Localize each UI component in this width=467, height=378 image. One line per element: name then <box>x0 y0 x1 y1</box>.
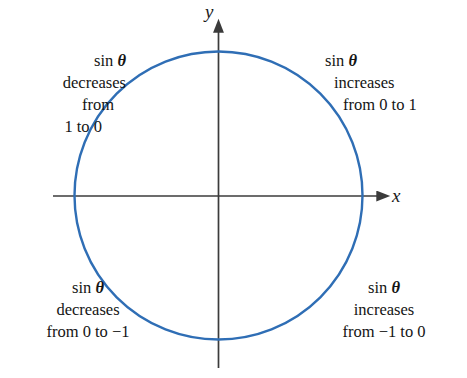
sin-prefix: sin <box>368 278 387 297</box>
quadrant-1-note-line-1: sin θ <box>325 50 459 72</box>
quadrant-3-note-line-1: sin θ <box>14 277 162 299</box>
quadrant-2-note-line-4: 1 to 0 <box>18 116 126 138</box>
quadrant-2-note-line-1: sin θ <box>18 50 126 72</box>
sin-prefix: sin <box>325 51 344 70</box>
theta-symbol: θ <box>348 51 357 70</box>
quadrant-3-note-line-3: from 0 to −1 <box>14 321 162 343</box>
quadrant-4-note-line-3: from −1 to 0 <box>308 321 460 343</box>
theta-symbol: θ <box>117 51 126 70</box>
theta-symbol: θ <box>391 278 400 297</box>
sin-prefix: sin <box>72 278 91 297</box>
theta-symbol: θ <box>95 278 104 297</box>
quadrant-2-note: sin θ decreases from 1 to 0 <box>18 50 126 138</box>
unit-circle-sine-figure: y x sin θ decreases from 1 to 0 sin θ in… <box>0 0 467 378</box>
quadrant-2-note-line-2: decreases <box>18 72 126 94</box>
y-axis-label: y <box>205 2 213 21</box>
quadrant-4-note: sin θ increases from −1 to 0 <box>308 277 460 343</box>
quadrant-3-note-line-2: decreases <box>14 299 162 321</box>
sin-prefix: sin <box>94 51 113 70</box>
quadrant-4-note-line-2: increases <box>308 299 460 321</box>
quadrant-2-note-line-3: from <box>18 94 126 116</box>
quadrant-1-note-line-2: increases <box>325 72 459 94</box>
x-axis-label: x <box>392 186 400 205</box>
quadrant-1-note: sin θ increases from 0 to 1 <box>325 50 459 116</box>
quadrant-3-note: sin θ decreases from 0 to −1 <box>14 277 162 343</box>
quadrant-1-note-line-3: from 0 to 1 <box>325 94 459 116</box>
quadrant-4-note-line-1: sin θ <box>308 277 460 299</box>
